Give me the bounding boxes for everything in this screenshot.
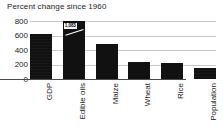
x-label-slot: Wheat xyxy=(128,81,150,137)
bar-slot-edible-oils: 1,083 xyxy=(63,21,85,79)
y-tick-label: 200 xyxy=(2,61,28,69)
y-tick-label: 800 xyxy=(2,18,28,26)
axis-baseline xyxy=(0,79,186,80)
bar-slot-maize xyxy=(96,21,118,79)
bar-slot-gdp xyxy=(30,21,52,79)
x-label-slot: Maize xyxy=(96,81,118,137)
x-tick-label-maize: Maize xyxy=(111,83,120,104)
x-label-slot: Population xyxy=(194,81,216,137)
x-axis-labels: GDP Edible oils Maize Wheat Rice Populat… xyxy=(30,81,216,137)
bar-series: 1,083 xyxy=(30,21,216,79)
y-axis: 800 600 400 200 0 xyxy=(0,0,28,137)
bar-population[interactable] xyxy=(194,68,216,79)
x-label-slot: Rice xyxy=(161,81,183,137)
bar-slot-rice xyxy=(161,21,183,79)
x-tick-label-edible-oils: Edible oils xyxy=(78,83,87,119)
x-label-slot: GDP xyxy=(30,81,52,137)
bar-slot-population xyxy=(194,21,216,79)
y-tick-label: 400 xyxy=(2,47,28,55)
x-tick-label-rice: Rice xyxy=(176,83,185,99)
bar-rice[interactable] xyxy=(161,63,183,80)
bar-edible-oils[interactable] xyxy=(63,21,85,79)
x-tick-label-population: Population xyxy=(209,83,218,121)
bar-chart: Percent change since 1960 800 600 400 20… xyxy=(0,0,223,137)
bar-value-callout: 1,083 xyxy=(64,23,77,29)
y-tick-label: 600 xyxy=(2,32,28,40)
bar-maize[interactable] xyxy=(96,44,118,79)
bar-slot-wheat xyxy=(128,21,150,79)
x-tick-label-gdp: GDP xyxy=(45,83,54,100)
x-label-slot: Edible oils xyxy=(63,81,85,137)
bar-wheat[interactable] xyxy=(128,62,150,79)
bar-gdp[interactable] xyxy=(30,34,52,79)
x-tick-label-wheat: Wheat xyxy=(143,83,152,106)
